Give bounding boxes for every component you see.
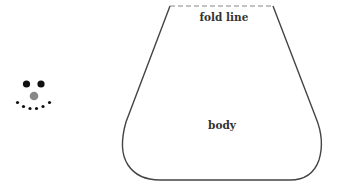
- fold-line-label: fold line: [200, 11, 249, 23]
- mouth-dots: [16, 101, 51, 110]
- pattern-diagram: fold line body: [0, 0, 338, 188]
- left-eye: [23, 80, 30, 87]
- snowman-face-icon: [16, 80, 51, 110]
- body-outline: [122, 6, 321, 180]
- right-eye: [37, 80, 44, 87]
- nose: [30, 92, 39, 101]
- body-label: body: [208, 119, 237, 131]
